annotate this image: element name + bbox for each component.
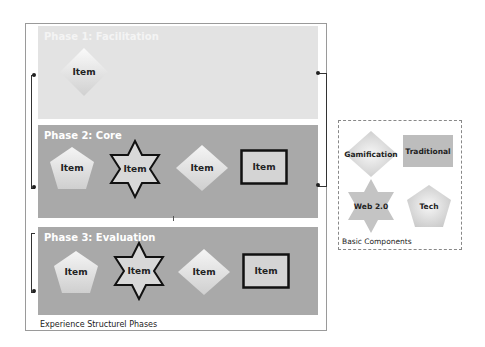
phase-2-core: Phase 2: Core Item Item Item Item <box>38 125 318 218</box>
pentagon-item[interactable]: Item <box>52 249 100 295</box>
diamond-item[interactable]: Item <box>58 46 110 98</box>
basic-components-label: Basic Components <box>342 237 412 246</box>
connector-dot <box>32 73 36 77</box>
connector-right-loop <box>318 73 327 187</box>
item-label: Item <box>176 247 232 297</box>
star-item[interactable]: Item <box>112 241 166 301</box>
item-label: Item <box>112 241 166 301</box>
component-gamification[interactable]: Gamification <box>343 129 399 179</box>
component-traditional[interactable]: Traditional <box>401 133 455 169</box>
item-label: Item <box>48 145 96 191</box>
component-tech[interactable]: Tech <box>405 183 453 229</box>
phase-title: Phase 1: Facilitation <box>44 31 159 42</box>
component-web20[interactable]: Web 2.0 <box>345 177 397 235</box>
rectangle-item[interactable]: Item <box>242 253 290 289</box>
item-label: Item <box>174 143 230 193</box>
pentagon-item[interactable]: Item <box>48 145 96 191</box>
connector-arrow-dot <box>32 289 36 293</box>
phase-1-facilitation: Phase 1: Facilitation Item <box>38 26 318 119</box>
connector-arrow-dot <box>316 71 320 75</box>
phase-3-evaluation: Phase 3: Evaluation Item Item Item Item <box>38 227 318 315</box>
diamond-item[interactable]: Item <box>174 143 230 193</box>
item-label: Item <box>240 149 288 185</box>
connector-phase1-phase2 <box>31 75 35 189</box>
item-label: Item <box>108 139 162 199</box>
connector-phase3-loop <box>31 233 35 293</box>
basic-components-panel: Gamification Traditional Web 2.0 Tech Ba… <box>338 120 462 250</box>
component-label: Gamification <box>343 129 399 179</box>
rectangle-item[interactable]: Item <box>240 149 288 185</box>
diamond-item[interactable]: Item <box>176 247 232 297</box>
star-item[interactable]: Item <box>108 139 162 199</box>
component-label: Tech <box>405 183 453 229</box>
item-label: Item <box>242 253 290 289</box>
item-label: Item <box>52 249 100 295</box>
phase-connector-tick <box>173 216 174 221</box>
item-label: Item <box>58 46 110 98</box>
connector-arrow-dot <box>32 185 36 189</box>
connector-dot <box>316 183 320 187</box>
component-label: Traditional <box>401 133 455 169</box>
component-label: Web 2.0 <box>345 177 397 235</box>
experience-phases-label: Experience Structurel Phases <box>40 320 157 329</box>
